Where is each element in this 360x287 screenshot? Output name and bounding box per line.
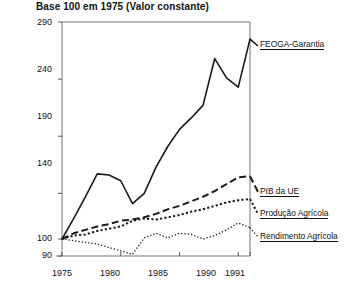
leader-line-feoga-garantia [250,39,258,46]
series-paths-group [62,39,250,254]
y-tick-marks [58,22,62,256]
chart-container: Base 100 em 1975 (Valor constante) 290 2… [0,0,360,287]
plot-area [0,0,360,287]
series-line-feoga-garantia [62,39,250,239]
series-line-pib-da-ue [62,176,250,239]
leader-line-produ-o-agr-cola [250,199,258,214]
leader-line-rendimento-agr-cola [250,228,258,237]
series-line-produ-o-agr-cola [62,199,250,239]
series-line-rendimento-agr-cola [62,223,250,254]
leader-line-pib-da-ue [250,176,258,192]
legend-leader-lines [250,39,258,237]
